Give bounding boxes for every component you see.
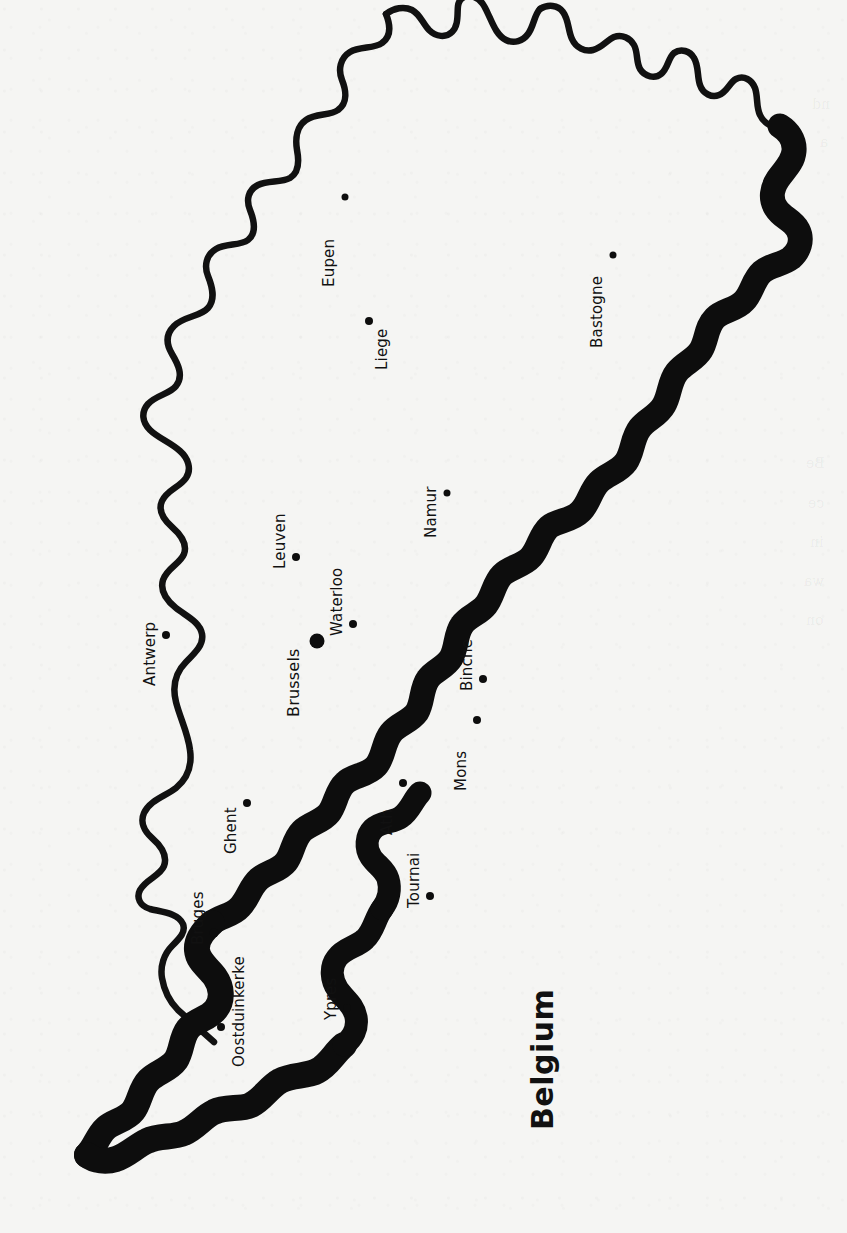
map-title: Belgium — [525, 989, 560, 1130]
city-marker — [444, 490, 451, 497]
city-label: Liege — [373, 328, 391, 370]
thin-border-east-section — [540, 6, 780, 126]
city-marker — [349, 620, 357, 628]
city-label: Mons — [452, 751, 470, 791]
belgium-map-outline — [0, 0, 847, 1233]
city-marker — [610, 252, 617, 259]
city-marker — [399, 779, 407, 787]
city-label: Ath — [378, 809, 396, 835]
city-label: Ypres — [322, 977, 340, 1020]
thin-border-north-section — [386, 0, 540, 42]
city-marker — [292, 553, 300, 561]
city-label: Brussels — [284, 648, 303, 717]
city-marker — [479, 675, 487, 683]
map-page: EupenBastogneLiegeNamurLeuvenWaterlooBru… — [0, 0, 847, 1233]
city-label: Binche — [458, 639, 476, 691]
city-marker — [473, 716, 481, 724]
city-marker — [343, 1004, 351, 1012]
city-label: Oostduinkerke — [230, 956, 248, 1067]
city-marker — [426, 892, 434, 900]
city-label: Bastogne — [588, 276, 606, 348]
city-label: Bruges — [189, 891, 207, 945]
city-marker — [310, 634, 325, 649]
city-marker — [365, 317, 373, 325]
city-marker — [342, 194, 349, 201]
city-label: Antwerp — [141, 622, 159, 686]
thick-southern-border — [212, 126, 800, 923]
city-label: Waterloo — [328, 568, 346, 636]
city-marker — [162, 631, 170, 639]
city-label: Ghent — [222, 807, 240, 854]
city-label: Tournai — [405, 853, 423, 908]
city-label: Leuven — [271, 513, 289, 569]
city-label: Namur — [422, 486, 440, 538]
city-marker — [217, 1023, 225, 1031]
city-label: Eupen — [320, 239, 338, 287]
city-marker — [210, 929, 219, 938]
city-marker — [243, 799, 251, 807]
